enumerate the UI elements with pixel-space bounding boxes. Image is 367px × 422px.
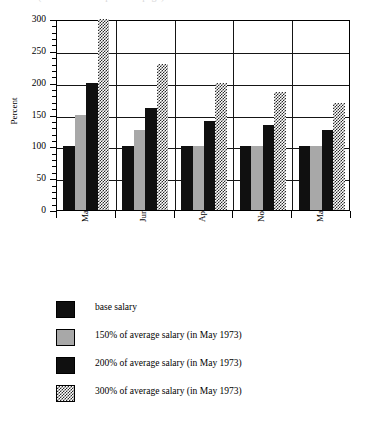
x-tick (56, 211, 57, 218)
x-tick (174, 211, 175, 218)
y-tick-label: 300 (18, 15, 46, 25)
legend-swatch (56, 385, 75, 402)
legend-swatch (56, 357, 75, 374)
bar (181, 146, 192, 210)
legend-item: 300% of average salary (in May 1973) (56, 382, 356, 410)
bar-chart: Percent 050100150200250300 May 1973June … (0, 0, 367, 295)
y-tick-label: 50 (18, 174, 46, 184)
bar (274, 92, 285, 210)
bar (98, 19, 109, 210)
gridline-group-separator (175, 21, 176, 210)
chart-legend: base salary150% of average salary (in Ma… (56, 298, 356, 410)
x-tick (232, 211, 233, 218)
bar (193, 146, 204, 210)
legend-label: 200% of average salary (in May 1973) (95, 358, 242, 368)
bar (63, 146, 74, 210)
legend-label: base salary (95, 302, 137, 312)
y-tick-label: 200 (18, 79, 46, 89)
legend-swatch (56, 301, 75, 318)
bar (204, 121, 215, 210)
x-tick (350, 211, 351, 218)
bar (263, 125, 274, 210)
bar (310, 146, 321, 210)
bar (75, 115, 86, 211)
bar (299, 146, 310, 210)
y-tick-label: 0 (18, 206, 46, 216)
bar (251, 146, 262, 210)
gridline-group-separator (233, 21, 234, 210)
y-tick-label: 100 (18, 143, 46, 153)
legend-label: 300% of average salary (in May 1973) (95, 386, 242, 396)
legend-swatch (56, 329, 75, 346)
legend-label: 150% of average salary (in May 1973) (95, 330, 242, 340)
gridline-group-separator (116, 21, 117, 210)
y-tick-label: 250 (18, 47, 46, 57)
y-tick-label: 150 (18, 111, 46, 121)
bar (240, 146, 251, 210)
bar (215, 83, 226, 210)
bar (157, 64, 168, 210)
bar (86, 83, 97, 210)
x-tick (115, 211, 116, 218)
gridline-group-separator (292, 21, 293, 210)
legend-item: 150% of average salary (in May 1973) (56, 326, 356, 354)
legend-item: base salary (56, 298, 356, 326)
bar (333, 103, 344, 210)
bar (122, 146, 133, 210)
bar (145, 108, 156, 210)
legend-item: 200% of average salary (in May 1973) (56, 354, 356, 382)
x-tick (291, 211, 292, 218)
bar (134, 130, 145, 210)
bar (322, 130, 333, 210)
plot-area (56, 20, 350, 211)
